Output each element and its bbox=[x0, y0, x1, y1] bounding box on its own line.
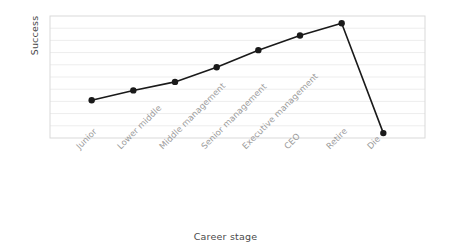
data-point-marker bbox=[172, 79, 178, 85]
data-point-marker bbox=[380, 130, 386, 136]
x-axis-title: Career stage bbox=[0, 231, 451, 242]
data-point-marker bbox=[213, 64, 219, 70]
data-point-marker bbox=[130, 87, 136, 93]
data-point-marker bbox=[88, 97, 94, 103]
data-point-marker bbox=[297, 32, 303, 38]
data-point-marker bbox=[338, 20, 344, 26]
chart-figure: Success JuniorLower middleMiddle managem… bbox=[0, 0, 451, 252]
data-point-marker bbox=[255, 47, 261, 53]
